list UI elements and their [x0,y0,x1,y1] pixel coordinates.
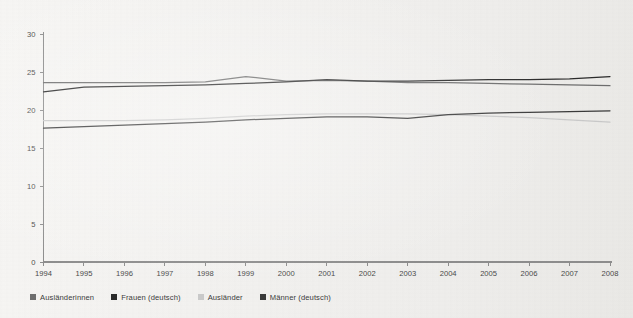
x-tick-label: 1994 [35,269,52,278]
legend-swatch-icon [30,294,36,300]
legend-label: Frauen (deutsch) [121,293,180,302]
chart-figure: 051015202530 199419951996199719981999200… [0,0,633,318]
x-tick-label: 2008 [602,269,619,278]
y-tick-label: 30 [27,30,35,39]
series-line-1 [44,77,611,86]
series-line-3 [44,114,611,122]
y-tick-label: 15 [27,144,35,153]
y-tick-label: 0 [31,258,35,267]
x-tick-label: 1997 [156,269,173,278]
x-tick-label: 2001 [318,269,335,278]
legend-label: Ausländer [208,293,243,302]
legend-label: Männer (deutsch) [270,293,331,302]
series-lines [44,77,611,129]
x-tick-label: 2006 [521,269,538,278]
line-chart-plot: 051015202530 199419951996199719981999200… [0,0,633,318]
legend-item-3[interactable]: Ausländer [198,293,243,302]
x-tick-label: 1999 [237,269,254,278]
chart-legend: AusländerinnenFrauen (deutsch)AusländerM… [30,290,331,304]
legend-swatch-icon [198,294,204,300]
x-tick-label: 1995 [76,269,93,278]
x-tick-label: 1998 [197,269,214,278]
x-tick-label: 2003 [399,269,416,278]
y-tick-label: 5 [31,220,35,229]
legend-item-2[interactable]: Frauen (deutsch) [111,293,180,302]
legend-swatch-icon [111,294,117,300]
x-tick-label: 2005 [480,269,497,278]
x-tick-label: 2004 [440,269,457,278]
x-tick-label: 2002 [359,269,376,278]
legend-item-4[interactable]: Männer (deutsch) [260,293,331,302]
legend-swatch-icon [260,294,266,300]
x-tick-label: 2000 [278,269,295,278]
y-tick-label: 10 [27,182,35,191]
y-tick-label: 25 [27,68,35,77]
x-tick-label: 1996 [116,269,133,278]
legend-label: Ausländerinnen [40,293,94,302]
legend-item-1[interactable]: Ausländerinnen [30,293,94,302]
y-tick-label: 20 [27,106,35,115]
x-axis: 1994199519961997199819992000200120022003… [35,262,618,278]
x-tick-label: 2007 [561,269,578,278]
y-axis: 051015202530 [27,30,43,267]
